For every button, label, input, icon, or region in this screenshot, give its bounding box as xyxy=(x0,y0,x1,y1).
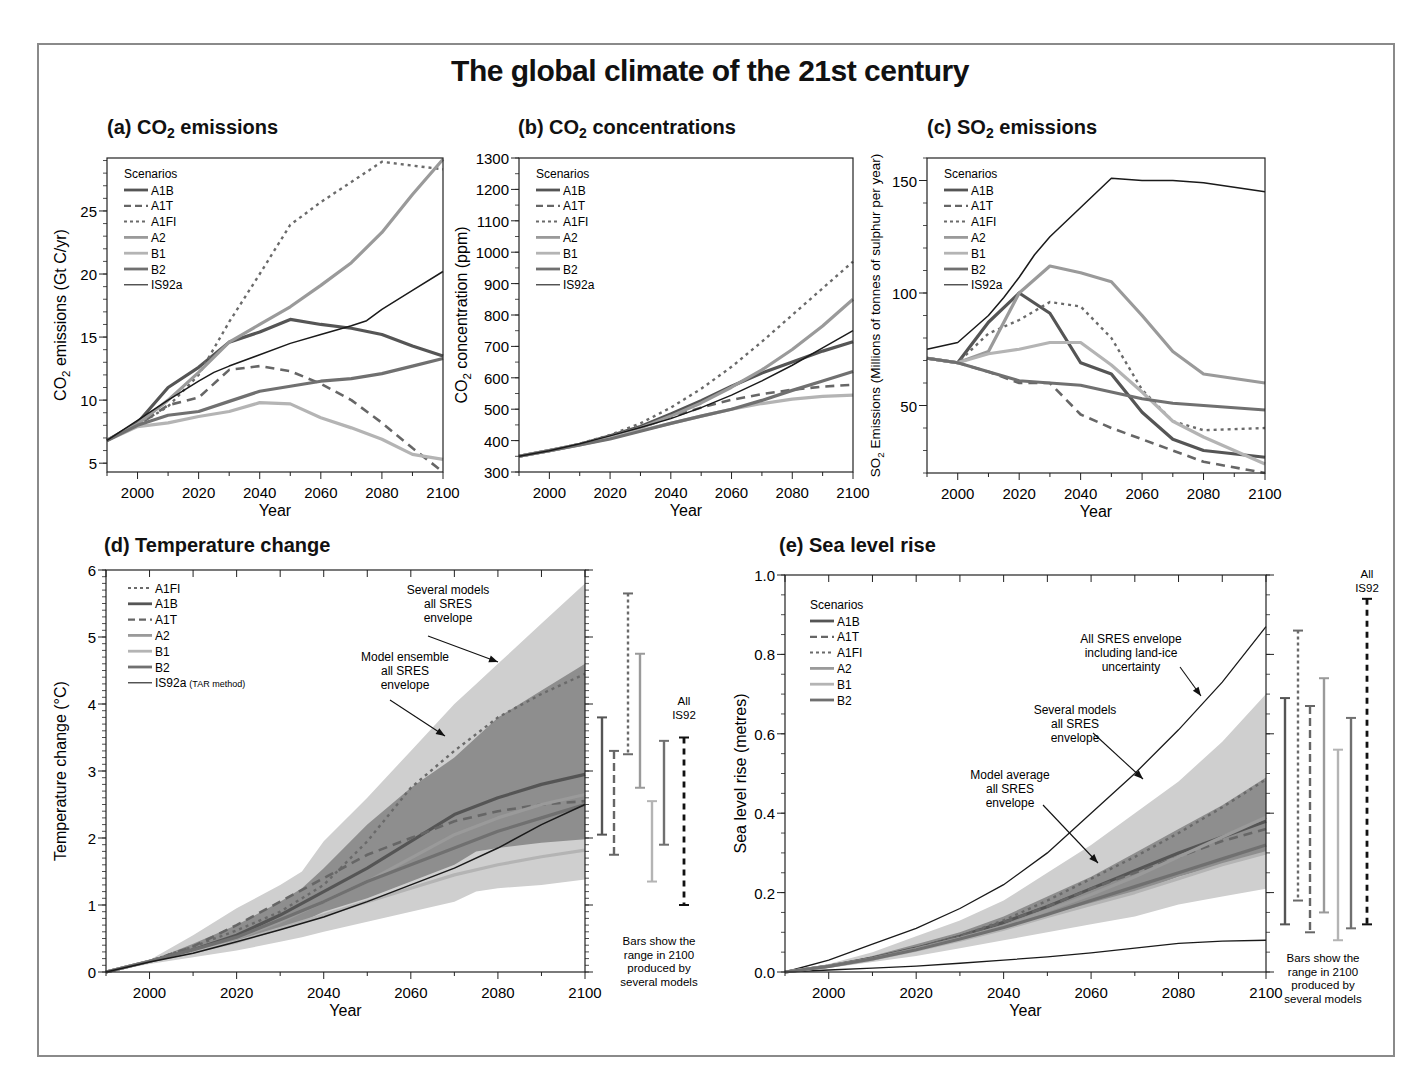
annotation-all-is92: IS92 xyxy=(1355,582,1379,594)
annotation-bars: produced by xyxy=(1291,979,1355,991)
range-bar-a1fi xyxy=(1293,631,1303,901)
legend-label-a1fi: A1FI xyxy=(155,582,180,596)
y-tick-label: 1200 xyxy=(476,181,509,198)
x-tick-label: 2020 xyxy=(899,984,932,1001)
x-tick-label: 2060 xyxy=(304,484,337,501)
legend-title: Scenarios xyxy=(944,167,997,181)
annotation-several-models: Several models xyxy=(407,583,490,597)
range-bar-a1b xyxy=(597,717,607,834)
legend-label-a1fi: A1FI xyxy=(151,215,176,229)
annotation-bars: Bars show the xyxy=(1287,952,1360,964)
x-tick-label: 2000 xyxy=(121,484,154,501)
legend-label-is92a: IS92a xyxy=(563,278,595,292)
arrow-head-icon xyxy=(1193,687,1201,696)
y-tick-label: 1000 xyxy=(476,244,509,261)
legend-title: Scenarios xyxy=(124,167,177,181)
x-axis-label: Year xyxy=(1080,503,1113,520)
x-tick-label: 2100 xyxy=(836,484,869,501)
series-b1 xyxy=(927,343,1265,465)
y-tick-label: 6 xyxy=(88,562,96,579)
y-tick-label: 1100 xyxy=(477,213,509,230)
x-tick-label: 2000 xyxy=(812,984,845,1001)
legend-label-a1fi: A1FI xyxy=(971,215,996,229)
legend-label-b1: B1 xyxy=(971,247,986,261)
annotation-several-models: envelope xyxy=(1051,731,1100,745)
range-bar-a2 xyxy=(1319,678,1329,912)
annotation-bars: Bars show the xyxy=(623,935,696,947)
range-bar-a1fi xyxy=(623,593,633,754)
y-tick-label: 0.4 xyxy=(754,805,775,822)
x-tick-label: 2100 xyxy=(426,484,459,501)
legend-label-suffix: (TAR method) xyxy=(189,679,245,689)
legend: ScenariosA1BA1TA1FIA2B1B2IS92a xyxy=(944,167,1003,292)
y-tick-label: 10 xyxy=(80,392,97,409)
y-tick-label: 0.0 xyxy=(754,964,775,981)
x-tick-label: 2020 xyxy=(220,984,253,1001)
annotation-land-ice: All SRES envelope xyxy=(1080,632,1182,646)
range-bar-b1 xyxy=(647,801,657,881)
legend-label-a1b: A1B xyxy=(151,184,174,198)
annotation-bars: range in 2100 xyxy=(1288,966,1358,978)
x-tick-label: 2040 xyxy=(654,484,687,501)
legend-label-a2: A2 xyxy=(837,662,852,676)
annotation-model-average: envelope xyxy=(986,796,1035,810)
legend-label-b1: B1 xyxy=(837,678,852,692)
legend-label-b2: B2 xyxy=(155,661,170,675)
series-is92a xyxy=(107,271,443,440)
x-tick-label: 2100 xyxy=(1249,984,1282,1001)
x-tick-label: 2080 xyxy=(776,484,809,501)
x-tick-label: 2000 xyxy=(941,485,974,502)
legend-title: Scenarios xyxy=(810,598,863,612)
annotation-bars: several models xyxy=(620,976,698,988)
legend-label-a1t: A1T xyxy=(151,199,174,213)
series-a2 xyxy=(519,299,853,456)
y-tick-label: 2 xyxy=(88,830,96,847)
land-ice-lower-line xyxy=(785,940,1266,972)
annotation-model-average: all SRES xyxy=(986,782,1034,796)
annotation-arrow xyxy=(1093,733,1143,779)
range-bar-all-is92 xyxy=(679,738,689,906)
y-tick-label: 300 xyxy=(484,464,509,481)
chart-c: 200020202040206020802100Year50100150SO2 … xyxy=(868,154,1282,520)
y-tick-label: 5 xyxy=(89,455,97,472)
x-tick-label: 2040 xyxy=(1064,485,1097,502)
legend-label-b1: B1 xyxy=(563,247,578,261)
annotation-arrow xyxy=(390,700,445,736)
x-tick-label: 2020 xyxy=(593,484,626,501)
x-tick-label: 2040 xyxy=(243,484,276,501)
x-tick-label: 2060 xyxy=(1125,485,1158,502)
legend: ScenariosA1BA1TA1FIA2B1B2IS92a xyxy=(536,167,595,292)
arrow-head-icon xyxy=(488,656,498,663)
range-bar-b2 xyxy=(659,741,669,845)
legend: ScenariosA1BA1TA1FIA2B1B2IS92a xyxy=(124,167,183,292)
x-axis-label: Year xyxy=(259,502,292,519)
annotation-several-models: Several models xyxy=(1034,703,1117,717)
range-bar-a1t xyxy=(1305,706,1315,932)
y-tick-label: 600 xyxy=(484,370,509,387)
series-b2 xyxy=(927,358,1265,410)
x-tick-label: 2000 xyxy=(533,484,566,501)
legend-label-a1b: A1B xyxy=(155,597,178,611)
series-a1fi xyxy=(927,302,1265,430)
legend-label-a1b: A1B xyxy=(563,184,586,198)
y-tick-label: 15 xyxy=(80,329,97,346)
chart-e: 200020202040206020802100Year0.00.20.40.6… xyxy=(732,567,1379,1019)
legend-label-is92a: IS92a xyxy=(151,278,183,292)
legend-label-b2: B2 xyxy=(151,263,166,277)
x-tick-label: 2080 xyxy=(365,484,398,501)
y-tick-label: 0.2 xyxy=(754,885,775,902)
annotation-several-models: all SRES xyxy=(1051,717,1099,731)
x-tick-label: 2080 xyxy=(1162,984,1195,1001)
legend-label-b1: B1 xyxy=(151,247,166,261)
annotation-bars: produced by xyxy=(627,962,691,974)
y-axis-label: CO2 emissions (Gt C/yr) xyxy=(52,229,72,401)
y-tick-label: 400 xyxy=(484,433,509,450)
range-bar-a1t xyxy=(609,751,619,855)
y-tick-label: 500 xyxy=(484,401,509,418)
x-tick-label: 2080 xyxy=(1187,485,1220,502)
annotation-all-is92: IS92 xyxy=(672,709,696,721)
x-tick-label: 2060 xyxy=(394,984,427,1001)
range-bar-a2 xyxy=(635,654,645,788)
y-tick-label: 3 xyxy=(88,763,96,780)
legend-label-a2: A2 xyxy=(971,231,986,245)
